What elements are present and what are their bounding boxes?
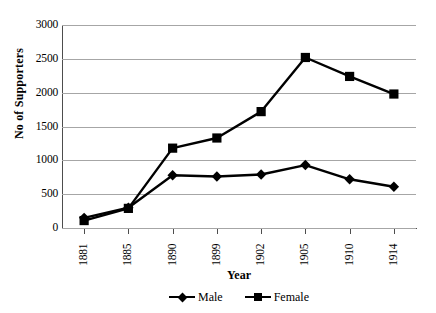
data-point-male	[256, 169, 266, 179]
series-layer	[62, 25, 416, 228]
y-tick-label: 1500	[14, 121, 58, 133]
legend-label: Male	[198, 291, 223, 303]
data-point-female	[257, 107, 266, 116]
data-point-female	[168, 144, 177, 153]
y-tick-label: 0	[14, 222, 58, 234]
legend-item-female[interactable]: Female	[245, 291, 309, 303]
y-tick-label: 500	[14, 188, 58, 200]
data-point-female	[345, 72, 354, 81]
chart-container: No of Supporters 30002500200015001000500…	[0, 0, 436, 313]
series-line-female	[84, 57, 394, 220]
data-point-male	[344, 174, 354, 184]
y-tick-label: 3000	[14, 19, 58, 31]
data-point-female	[389, 89, 398, 98]
data-point-female	[301, 53, 310, 62]
data-point-female	[80, 216, 89, 225]
legend-swatch-square-icon	[245, 291, 271, 303]
data-point-male	[300, 160, 310, 170]
x-axis-title: Year	[62, 268, 416, 283]
legend-item-male[interactable]: Male	[169, 291, 223, 303]
plot-area	[62, 25, 416, 228]
data-point-male	[212, 171, 222, 181]
legend-swatch-diamond-icon	[169, 291, 195, 303]
legend-label: Female	[274, 291, 309, 303]
data-point-female	[124, 204, 133, 213]
chart-legend: MaleFemale	[62, 288, 416, 306]
y-tick-label: 2000	[14, 87, 58, 99]
y-tick-label: 1000	[14, 154, 58, 166]
y-tick-label: 2500	[14, 53, 58, 65]
y-axis-ticks: 300025002000150010005000	[8, 25, 58, 228]
data-point-male	[389, 182, 399, 192]
data-point-female	[212, 133, 221, 142]
